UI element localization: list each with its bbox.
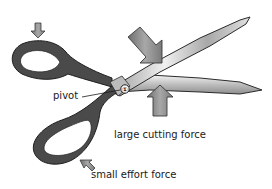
effort-arrow-top-icon [31,23,45,38]
upper-handle [12,41,112,87]
small-effort-force-label: small effort force [91,170,176,180]
pivot-label: pivot [53,91,78,101]
scissors-diagram: ① [0,0,272,189]
cutting-force-arrow-top-icon [128,27,162,63]
large-cutting-force-label: large cutting force [114,130,206,140]
pivot-marker: ① [122,86,128,94]
